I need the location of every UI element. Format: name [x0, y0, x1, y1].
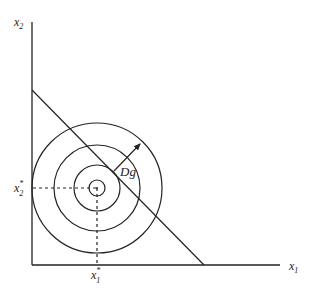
x-axis-label: x1 — [288, 259, 298, 275]
constraint-line — [32, 90, 204, 265]
x1-star-label: x*1 — [90, 266, 100, 285]
constrained-optimization-diagram: x2 x1 x*2 x*1 Dg — [0, 0, 309, 295]
optimum-point — [96, 187, 98, 189]
x2-star-label: x*2 — [13, 179, 23, 198]
y-axis-label: x2 — [13, 15, 23, 31]
gradient-label: Dg — [119, 164, 136, 179]
